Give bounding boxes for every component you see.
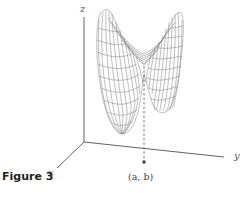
saddle-surface bbox=[97, 10, 184, 135]
y-axis bbox=[84, 142, 224, 157]
y-axis-label: y bbox=[234, 151, 240, 161]
z-axis-label: z bbox=[80, 4, 85, 14]
axes bbox=[57, 17, 224, 168]
point-ab-label: (a, b) bbox=[128, 172, 153, 182]
point-ab-marker bbox=[142, 160, 145, 163]
figure-caption: Figure 3 bbox=[2, 171, 53, 182]
saddle-surface-figure: z y x (a, b) Figure 3 bbox=[0, 0, 246, 199]
x-axis bbox=[57, 142, 84, 168]
